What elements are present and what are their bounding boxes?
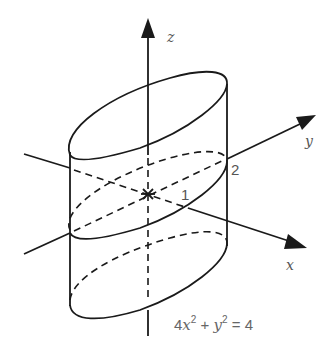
cylinder-diagram: z y x 2 1 4x2 + y2 = 4 xyxy=(0,0,329,341)
z-axis-label: z xyxy=(166,29,175,45)
y-axis-label: y xyxy=(304,133,314,149)
equation-label: 4x2 + y2 = 4 xyxy=(174,314,253,334)
bottom-ellipse xyxy=(70,232,227,319)
x-axis-label: x xyxy=(286,257,294,273)
x-intercept-label: 1 xyxy=(181,186,189,203)
y-intercept-label: 2 xyxy=(231,161,239,178)
z-axis xyxy=(141,18,155,336)
